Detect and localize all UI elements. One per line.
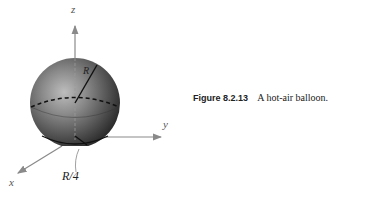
x-axis-label: x (9, 177, 14, 188)
x-axis (18, 146, 62, 173)
radius-label: R (83, 66, 89, 76)
hot-air-balloon-figure: z y x R R/4 (0, 0, 200, 197)
y-axis-label: y (163, 119, 168, 130)
figure-caption: Figure 8.2.13 A hot-air balloon. (193, 92, 328, 103)
offset-label: R/4 (62, 170, 79, 182)
balloon-diagram (0, 0, 200, 197)
figure-caption-text: A hot-air balloon. (257, 92, 328, 103)
figure-number: Figure 8.2.13 (193, 93, 248, 103)
z-axis-label: z (71, 4, 75, 15)
